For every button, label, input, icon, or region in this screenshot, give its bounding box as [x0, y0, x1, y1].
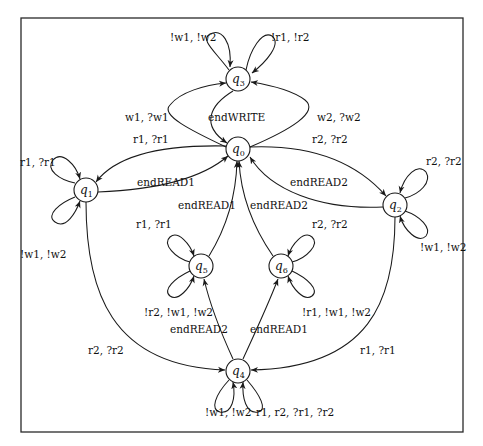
edge-q4-q6 — [243, 279, 278, 359]
label-q6-q0: endREAD2 — [250, 199, 308, 211]
state-q2: q2 — [383, 193, 407, 217]
label-q5-q0: endREAD1 — [178, 199, 236, 211]
label-q2-loop-bottom: !w1, !w2 — [420, 241, 466, 253]
label-q0-q1: r1, ?r1 — [133, 133, 169, 145]
label-q1-q4: r2, ?r2 — [88, 344, 124, 356]
label-q3-loop-left: !w1, !w2 — [170, 31, 216, 43]
edge-q2-loop-bottom — [400, 211, 428, 238]
label-q2-q4: r1, ?r1 — [360, 344, 396, 356]
state-q6: q6 — [269, 254, 293, 278]
label-q0-q3-left: w1, ?w1 — [125, 111, 169, 123]
state-q4: q4 — [226, 359, 250, 383]
state-q5: q5 — [189, 254, 213, 278]
label-q6-loop-top: r2, ?r2 — [312, 218, 348, 230]
state-q0: q0 — [226, 137, 250, 161]
label-q2-q0: endREAD2 — [290, 176, 348, 188]
edge-q5-loop-top — [168, 235, 194, 262]
label-q4-loop-left: !w1, !w2 — [205, 406, 251, 418]
label-q4-q5: endREAD2 — [170, 323, 228, 335]
label-q2-loop-top: r2, ?r2 — [426, 155, 462, 167]
state-q1: q1 — [74, 178, 98, 202]
label-q5-loop-top: r1, ?r1 — [136, 218, 172, 230]
label-q0-q2: r2, ?r2 — [312, 133, 348, 145]
edge-q5-loop-bottom — [168, 271, 194, 297]
label-q6-loop-bottom: !r1, !w1, !w2 — [302, 306, 371, 318]
label-q5-loop-bottom: !r2, !w1, !w2 — [144, 306, 213, 318]
label-q3-q0-endwrite: endWRITE — [208, 111, 265, 123]
label-q1-loop-bottom: !w1, !w2 — [20, 248, 66, 260]
label-q0-q3-right: w2, ?w2 — [317, 111, 361, 123]
label-q3-loop-right: !r1, !r2 — [271, 31, 310, 43]
edge-q4-q5 — [204, 279, 233, 359]
label-q4-q6: endREAD1 — [250, 323, 308, 335]
label-q4-loop-right: r1, r2, ?r1, ?r2 — [256, 406, 334, 418]
state-q3: q3 — [226, 67, 250, 91]
edge-q6-loop-top — [288, 235, 314, 262]
edge-q2-loop-top — [400, 169, 428, 198]
state-diagram: q0 q1 q2 q3 q4 q5 q6 !w1, !w2 !r1, !r2 — [0, 0, 483, 446]
label-q1-loop-top: r1, ?r1 — [20, 156, 56, 168]
diagram-canvas: q0 q1 q2 q3 q4 q5 q6 !w1, !w2 !r1, !r2 — [0, 0, 483, 446]
label-q1-q0: endREAD1 — [137, 176, 195, 188]
edge-q1-loop-bottom — [52, 197, 80, 224]
edge-q6-loop-bottom — [288, 271, 314, 297]
edge-q0-q2 — [250, 147, 386, 196]
